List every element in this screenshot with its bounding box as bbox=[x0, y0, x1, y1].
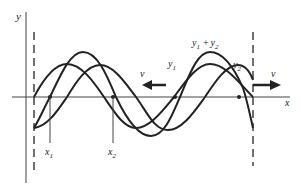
y1-label: y1 bbox=[167, 58, 176, 72]
right-velocity-label: v bbox=[271, 68, 276, 79]
y-axis-label: y bbox=[15, 10, 21, 22]
wave-y1-plus-y2 bbox=[34, 52, 253, 136]
x-axis-label: x bbox=[284, 97, 290, 108]
node-dot bbox=[173, 95, 177, 99]
left-velocity-arrow-icon bbox=[142, 80, 166, 90]
node-dot bbox=[237, 95, 241, 99]
x2-label: x2 bbox=[107, 146, 116, 160]
y1-plus-y2-label: y1+y2 bbox=[191, 37, 219, 51]
wave-superposition-diagram: y x x1 x2 v v y1 y2 y1+y2 bbox=[0, 0, 301, 187]
left-velocity-label: v bbox=[140, 68, 145, 79]
right-velocity-arrow-icon bbox=[253, 80, 281, 90]
x1-label: x1 bbox=[44, 146, 53, 160]
